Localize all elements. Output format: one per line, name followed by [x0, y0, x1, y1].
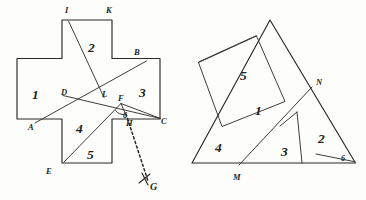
- vertex-label-e: E: [45, 166, 52, 176]
- triangle-cut-piece-3: [297, 112, 302, 163]
- piece-label: 4: [75, 121, 83, 136]
- vertex-label-b: B: [133, 47, 140, 57]
- piece-label: 5: [240, 68, 247, 83]
- piece-label: 1: [32, 87, 39, 102]
- triangle-cut-piece-5: [199, 36, 257, 63]
- piece-label: 1: [255, 103, 262, 118]
- vertex-label-g: G: [150, 181, 158, 192]
- piece-label-6: 6: [341, 154, 345, 163]
- vertex-label-n: N: [315, 77, 323, 87]
- vertex-label-c: C: [161, 116, 167, 126]
- left-figure-greek-cross: 1 2 3 4 5 I K B D L F C A H E G 6: [17, 5, 167, 192]
- piece-label: 5: [87, 147, 94, 162]
- piece-label: 2: [87, 40, 95, 55]
- vertex-label-a: A: [27, 122, 34, 132]
- piece-label: 4: [214, 140, 222, 155]
- triangle-cut-piece-6: [316, 154, 354, 162]
- piece-label: 3: [280, 144, 288, 159]
- vertex-label-l: L: [101, 89, 107, 99]
- piece-label: 2: [317, 131, 325, 146]
- figures-canvas: 1 2 3 4 5 I K B D L F C A H E G 6: [0, 0, 366, 200]
- vertex-label-d: D: [60, 87, 67, 97]
- dissection-plate: 1 2 3 4 5 I K B D L F C A H E G 6: [0, 0, 366, 200]
- vertex-label-k: K: [105, 5, 113, 15]
- cross-cut-D-C: [63, 96, 161, 119]
- cross-cut-I-L: [69, 21, 105, 98]
- right-figure-triangle: 5 1 4 3 2 6 N M: [192, 20, 356, 182]
- cross-cut-A-B: [35, 61, 147, 123]
- vertex-label-f: F: [117, 93, 124, 103]
- piece-label: 3: [138, 85, 146, 100]
- vertex-label-i: I: [64, 5, 69, 15]
- vertex-label-m: M: [232, 172, 241, 182]
- angle-label-6: 6: [123, 111, 127, 120]
